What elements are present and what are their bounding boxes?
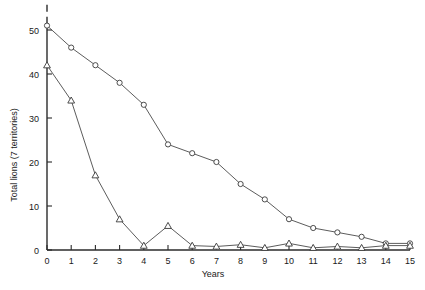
x-tick-label-0: 0	[44, 256, 49, 266]
series-circle-series	[44, 23, 412, 246]
series-triangle-series	[44, 62, 414, 251]
data-point-triangle-series-1	[68, 97, 75, 103]
data-point-triangle-series-5	[165, 222, 172, 228]
y-axis-title: Total lions (7 territories)	[9, 108, 19, 202]
x-tick-label-1: 1	[69, 256, 74, 266]
x-tick-label-9: 9	[262, 256, 267, 266]
x-tick-label-14: 14	[381, 256, 391, 266]
x-tick-label-15: 15	[405, 256, 415, 266]
y-tick-label-10: 10	[29, 202, 39, 212]
data-point-circle-series-10	[286, 217, 291, 222]
data-point-circle-series-7	[214, 159, 219, 164]
series-line-circle-series	[47, 26, 410, 244]
data-point-triangle-series-2	[92, 172, 99, 178]
data-point-circle-series-13	[359, 234, 364, 239]
x-tick-label-5: 5	[165, 256, 170, 266]
x-tick-label-8: 8	[238, 256, 243, 266]
data-point-circle-series-2	[93, 63, 98, 68]
data-point-circle-series-0	[44, 23, 49, 28]
data-point-triangle-series-10	[286, 240, 293, 246]
data-point-triangle-series-8	[237, 241, 244, 247]
y-tick-label-50: 50	[29, 26, 39, 36]
x-tick-label-3: 3	[117, 256, 122, 266]
data-point-circle-series-5	[165, 142, 170, 147]
data-point-circle-series-1	[69, 45, 74, 50]
x-tick-label-4: 4	[141, 256, 146, 266]
data-point-circle-series-12	[335, 230, 340, 235]
series-layer	[44, 23, 414, 250]
data-point-circle-series-9	[262, 197, 267, 202]
data-point-triangle-series-3	[116, 216, 123, 222]
data-point-circle-series-6	[190, 151, 195, 156]
y-tick-label-0: 0	[34, 246, 39, 256]
x-tick-label-11: 11	[309, 256, 318, 266]
y-tick-label-40: 40	[29, 70, 39, 80]
data-point-circle-series-4	[141, 102, 146, 107]
data-point-triangle-series-0	[44, 62, 51, 68]
x-axis-tick-labels: 0123456789101112131415	[44, 256, 415, 266]
y-tick-label-30: 30	[29, 114, 39, 124]
x-tick-label-2: 2	[93, 256, 98, 266]
x-tick-label-6: 6	[190, 256, 195, 266]
x-axis-title: Years	[202, 269, 225, 279]
data-point-circle-series-3	[117, 80, 122, 85]
data-point-triangle-series-12	[334, 243, 341, 249]
y-axis-tick-labels: 01020304050	[29, 26, 39, 256]
x-tick-label-7: 7	[214, 256, 219, 266]
chart-figure: 01020304050 0123456789101112131415 Years…	[0, 0, 425, 290]
series-line-triangle-series	[47, 65, 410, 248]
x-tick-label-12: 12	[332, 256, 342, 266]
x-tick-label-10: 10	[284, 256, 294, 266]
data-point-circle-series-11	[311, 225, 316, 230]
y-tick-label-20: 20	[29, 158, 39, 168]
line-chart: 01020304050 0123456789101112131415 Years…	[0, 0, 425, 290]
x-tick-label-13: 13	[357, 256, 367, 266]
data-point-circle-series-8	[238, 181, 243, 186]
